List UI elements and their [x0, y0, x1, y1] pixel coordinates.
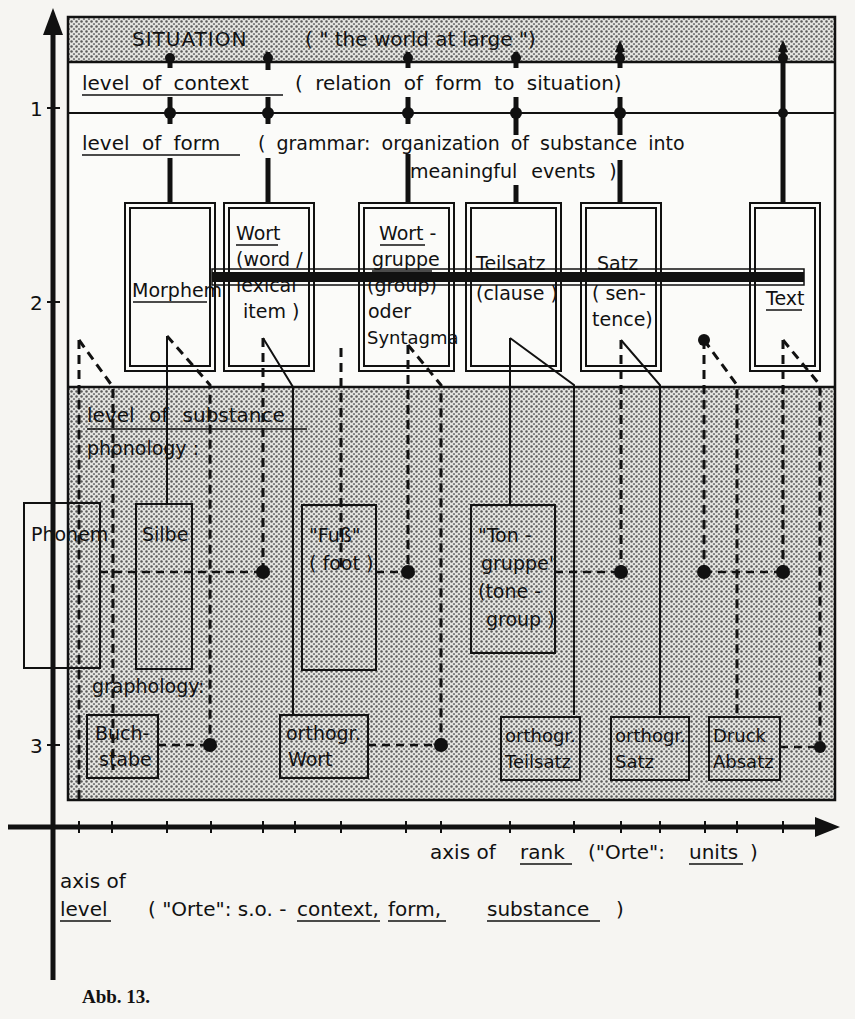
- svg-text:meaningful events ): meaningful events ): [410, 160, 617, 182]
- arrow-right-icon: [815, 817, 840, 837]
- svg-text:gruppe: gruppe: [372, 248, 440, 270]
- svg-text:axis of: axis of: [430, 840, 497, 864]
- svg-text:group ): group ): [486, 608, 555, 630]
- svg-text:( sen-: ( sen-: [592, 282, 646, 304]
- svg-text:substance: substance: [487, 897, 589, 921]
- svg-text:Satz: Satz: [615, 751, 654, 772]
- svg-text:phonology :: phonology :: [87, 437, 199, 459]
- svg-text:graphology:: graphology:: [92, 675, 204, 697]
- svg-text:(clause ): (clause ): [476, 282, 558, 304]
- svg-text:level of context: level of context: [82, 71, 249, 95]
- svg-text:orthogr.: orthogr.: [505, 725, 576, 746]
- svg-text:(group): (group): [367, 274, 437, 296]
- arrow-up-icon: [43, 8, 63, 35]
- svg-text:Wort -: Wort -: [379, 222, 436, 244]
- svg-text:): ): [750, 840, 758, 864]
- svg-text:tence): tence): [592, 308, 653, 330]
- context-level-label: level of context ( relation of form to s…: [82, 71, 622, 95]
- svg-text:orthogr.: orthogr.: [615, 725, 686, 746]
- svg-text:units: units: [689, 840, 738, 864]
- svg-text:Syntagma: Syntagma: [367, 327, 459, 348]
- svg-text:Absatz: Absatz: [713, 751, 774, 772]
- svg-text:stabe: stabe: [99, 748, 152, 770]
- svg-text:oder: oder: [368, 300, 411, 322]
- svg-text:(tone -: (tone -: [478, 580, 541, 602]
- svg-text:axis of: axis of: [60, 869, 127, 893]
- y-tick-2: 2: [30, 291, 43, 315]
- svg-text:(word /: (word /: [236, 248, 303, 270]
- svg-text:Phonem: Phonem: [31, 523, 108, 545]
- x-axis: [8, 817, 840, 837]
- y-tick-1: 1: [30, 97, 43, 121]
- svg-text:Silbe: Silbe: [142, 523, 188, 545]
- svg-text:("Orte":: ("Orte":: [588, 840, 665, 864]
- svg-text:level: level: [60, 897, 108, 921]
- x-axis-label: axis of rank ("Orte": units ): [430, 840, 758, 864]
- y-tick-3: 3: [30, 734, 43, 758]
- figure-caption: Abb. 13.: [82, 986, 150, 1007]
- svg-text:level of substance: level of substance: [87, 403, 285, 427]
- svg-text:level of form: level of form: [82, 131, 220, 155]
- svg-text:Druck: Druck: [713, 725, 767, 746]
- svg-text:form,: form,: [388, 897, 441, 921]
- svg-text:Buch-: Buch-: [95, 722, 149, 744]
- svg-text:Satz: Satz: [597, 252, 638, 274]
- svg-text:context,: context,: [297, 897, 379, 921]
- svg-text:( "Orte": s.o. -: ( "Orte": s.o. -: [148, 897, 286, 921]
- svg-text:( grammar: organization of sub: ( grammar: organization of substance int…: [258, 132, 685, 154]
- svg-text:Morphem: Morphem: [132, 279, 222, 301]
- svg-text:Teilsatz: Teilsatz: [475, 252, 546, 274]
- svg-text:"Fuß": "Fuß": [309, 524, 360, 546]
- svg-text:): ): [616, 897, 624, 921]
- svg-text:orthogr.: orthogr.: [286, 722, 361, 744]
- svg-text:lexical: lexical: [236, 274, 297, 296]
- svg-text:"Ton -: "Ton -: [478, 524, 532, 546]
- rank-level-diagram: 1 2 3: [0, 0, 855, 1019]
- svg-text:Text: Text: [765, 287, 804, 309]
- svg-text:( " the world at large "): ( " the world at large "): [305, 27, 536, 51]
- y-axis: 1 2 3: [30, 8, 63, 980]
- svg-text:( foot ): ( foot ): [309, 552, 373, 574]
- svg-text:item ): item ): [243, 300, 299, 322]
- svg-text:rank: rank: [520, 840, 565, 864]
- svg-text:Wort: Wort: [288, 748, 333, 770]
- svg-text:Wort: Wort: [236, 222, 281, 244]
- svg-text:gruppe": gruppe": [481, 552, 557, 574]
- situation-label: SITUATION ( " the world at large "): [132, 27, 536, 51]
- svg-text:( relation of form to situatio: ( relation of form to situation): [295, 71, 622, 95]
- svg-text:Teilsatz: Teilsatz: [504, 751, 571, 772]
- svg-text:SITUATION: SITUATION: [132, 27, 247, 51]
- y-axis-label: axis of level ( "Orte": s.o. - context, …: [60, 869, 624, 921]
